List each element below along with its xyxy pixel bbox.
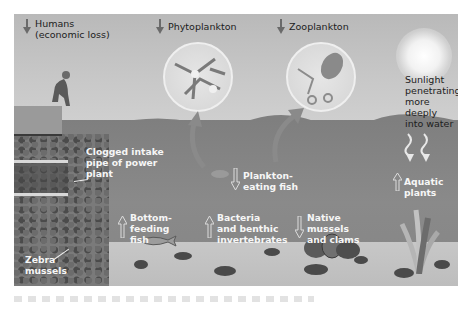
zooplankton-magnified xyxy=(286,42,356,112)
intake-pipe xyxy=(14,160,68,196)
label-aquatic-plants: Aquatic plants xyxy=(404,176,458,198)
down-arrow-outline-icon xyxy=(231,168,240,190)
dock xyxy=(14,106,62,136)
label-bottom-feeding-fish: Bottom- feeding fish xyxy=(130,212,172,245)
label-native-mussels: Native mussels and clams xyxy=(307,212,359,245)
label-intake-pipe: Clogged intake pipe of power plant xyxy=(86,146,164,179)
label-bacteria-benthic: Bacteria and benthic invertebrates xyxy=(217,212,287,245)
up-arrow-outline-icon xyxy=(118,216,127,238)
curved-arrow-to-zooplankton xyxy=(268,104,308,164)
down-arrow-icon xyxy=(277,19,285,34)
down-arrow-icon xyxy=(156,19,164,34)
down-arrow-icon xyxy=(23,19,31,34)
ecosystem-diagram: Humans (economic loss) Phytoplankton Zoo… xyxy=(14,14,458,286)
caption-cutoff xyxy=(14,296,314,302)
label-zebra-mussels: Zebra mussels xyxy=(25,254,67,276)
curved-arrow-to-phytoplankton xyxy=(184,109,214,169)
label-zooplankton: Zooplankton xyxy=(289,21,349,32)
aquatic-plants-figure xyxy=(394,204,444,274)
sunlight-rays xyxy=(400,132,440,164)
label-phytoplankton: Phytoplankton xyxy=(168,21,236,32)
down-arrow-outline-icon xyxy=(295,216,304,238)
up-arrow-outline-icon xyxy=(393,173,402,191)
plankton-eating-fish-figure xyxy=(210,169,232,179)
up-arrow-outline-icon xyxy=(205,216,214,238)
phytoplankton-magnified xyxy=(163,42,233,112)
human-figure xyxy=(46,70,76,108)
label-plankton-eating-fish: Plankton- eating fish xyxy=(243,170,298,192)
label-sunlight: Sunlight penetrating more deeply into wa… xyxy=(405,74,458,129)
label-humans: Humans (economic loss) xyxy=(35,18,110,40)
